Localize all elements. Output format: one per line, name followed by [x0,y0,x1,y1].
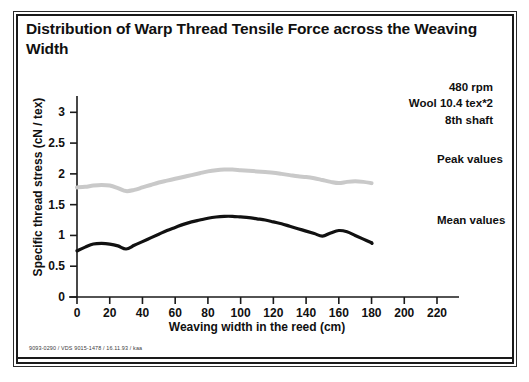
x-tick-label: 220 [427,306,447,320]
y-tick-label: 2.5 [19,136,65,150]
series-line-peak [77,169,372,191]
x-tick-label: 140 [296,306,316,320]
x-tick-label: 160 [329,306,349,320]
chart-plot-area [0,0,529,382]
series-label-peak: Peak values [437,153,503,165]
x-tick-label: 100 [231,306,251,320]
series-line-mean [77,216,372,251]
x-tick-label: 0 [74,306,81,320]
x-tick-label: 200 [394,306,414,320]
x-tick-label: 60 [168,306,181,320]
y-tick-label: 2 [19,167,65,181]
footer-divider [16,357,514,359]
y-tick-label: 0.5 [19,259,65,273]
series-label-mean: Mean values [437,214,505,226]
x-tick-label: 180 [362,306,382,320]
series-end-cap-mean [372,243,373,244]
figure-page: Distribution of Warp Thread Tensile Forc… [0,0,529,382]
x-tick-label: 120 [263,306,283,320]
y-tick-label: 3 [19,105,65,119]
y-tick-label: 0 [19,290,65,304]
x-tick-label: 80 [201,306,214,320]
y-tick-label: 1.5 [19,198,65,212]
y-tick-label: 1 [19,228,65,242]
x-tick-label: 20 [103,306,116,320]
figure-footer-code: 9093-0290 / VDS 9015-1478 / 16.11.93 / k… [29,345,142,351]
x-tick-label: 40 [136,306,149,320]
